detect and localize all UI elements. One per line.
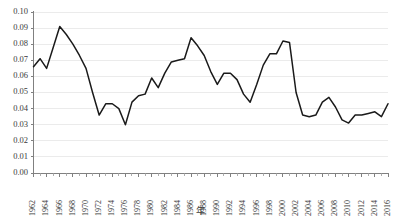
y-tick-label: 0.07	[13, 54, 28, 64]
x-tick-label: 1992	[225, 200, 234, 216]
y-tick-label: 0.01	[13, 151, 28, 161]
x-tick-labels: 1962196419661968197019721974197619781980…	[28, 200, 392, 216]
y-tick-label: 0.00	[13, 167, 28, 177]
x-tick-label: 2012	[357, 200, 366, 216]
y-tick-label: 0.10	[13, 6, 28, 16]
x-tick-label: 1978	[133, 200, 142, 216]
x-tick-label: 1982	[160, 200, 169, 216]
x-tick-label: 1974	[107, 200, 116, 216]
x-tick-label: 2000	[278, 200, 287, 216]
x-tick-label: 1976	[120, 200, 129, 216]
y-tick-label: 0.09	[13, 22, 28, 32]
gridlines-group	[34, 12, 389, 173]
y-tick-labels: 0.000.010.020.030.040.050.060.070.080.09…	[13, 6, 29, 177]
x-tick-label: 1998	[265, 200, 274, 216]
x-tick-label: 1990	[212, 200, 221, 216]
x-tick-label: 1994	[238, 200, 247, 216]
chart-svg: 0.000.010.020.030.040.050.060.070.080.09…	[0, 0, 394, 223]
x-tick-label: 2014	[370, 200, 379, 216]
y-tick-label: 0.02	[13, 135, 28, 145]
x-tick-label: 2002	[291, 200, 300, 216]
y-tick-label: 0.03	[13, 119, 28, 129]
x-tick-label: 2004	[304, 200, 313, 216]
x-tick-label: 2010	[343, 200, 352, 216]
x-tick-label: 1966	[55, 200, 64, 216]
y-tick-label: 0.06	[13, 70, 28, 80]
x-tick-label: 1996	[252, 200, 261, 216]
line-chart: 0.000.010.020.030.040.050.060.070.080.09…	[0, 0, 394, 223]
x-axis-title: 年	[196, 205, 205, 216]
x-tick-label: 1984	[173, 200, 182, 216]
x-tick-label: 2016	[383, 200, 392, 216]
data-series-line	[34, 26, 389, 124]
y-tick-label: 0.04	[13, 103, 29, 113]
y-axis-group	[31, 11, 34, 173]
x-tick-label: 1986	[186, 200, 195, 216]
x-tick-label: 1970	[81, 200, 90, 216]
y-tick-label: 0.08	[13, 38, 28, 48]
x-axis-group	[34, 173, 389, 177]
x-tick-label: 1972	[94, 200, 103, 216]
x-tick-label: 1980	[146, 200, 155, 216]
y-tick-label: 0.05	[13, 86, 28, 96]
x-tick-label: 1962	[28, 200, 37, 216]
x-tick-label: 2008	[330, 200, 339, 216]
x-tick-label: 1968	[68, 200, 77, 216]
x-tick-label: 2006	[317, 200, 326, 216]
x-tick-label: 1964	[41, 200, 50, 216]
